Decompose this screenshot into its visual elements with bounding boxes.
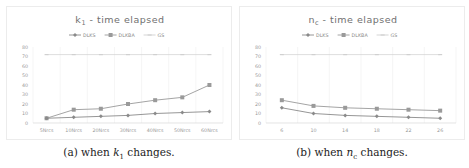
data-point-marker (207, 83, 211, 87)
data-point-marker (343, 113, 347, 117)
x-tick-label: 14 (342, 128, 348, 133)
data-point-marker (72, 115, 76, 119)
data-point-marker (280, 106, 284, 110)
chart-panel-k1: k1 - time elapsedDLKSDLKBAGS010203040506… (6, 6, 232, 140)
x-tick-label: 10Nrcs (65, 128, 82, 133)
x-tick-label: 40Nrcs (147, 128, 164, 133)
caption-a: (a) when k1 changes. (4, 146, 234, 161)
y-tick-label: 10 (22, 111, 28, 116)
y-tick-label: 0 (258, 121, 261, 126)
data-point-marker (407, 108, 411, 112)
data-point-marker (153, 98, 157, 102)
data-point-marker (207, 110, 211, 114)
legend-label-dlks: DLKS (316, 33, 329, 38)
data-point-marker (438, 109, 442, 113)
y-tick-label: 30 (255, 92, 261, 97)
y-tick-label: 40 (22, 83, 28, 88)
legend-label-gs: GS (391, 33, 398, 38)
x-tick-label: 5Nrcs (40, 128, 54, 133)
data-point-marker (407, 115, 411, 119)
y-tick-label: 30 (22, 92, 28, 97)
x-tick-label: 18 (374, 128, 380, 133)
y-tick-label: 20 (22, 102, 28, 107)
caption-a-prefix: (a) when (63, 146, 113, 158)
legend-marker-icon (109, 33, 113, 37)
legend-label-dlkba: DLKBA (119, 33, 136, 38)
legend-marker-icon (342, 33, 346, 37)
caption-b: (b) when nc changes. (237, 146, 467, 161)
data-point-marker (438, 116, 442, 120)
legend: DLKSDLKBAGS (69, 33, 164, 38)
chart-panel-nc: nc - time elapsedDLKSDLKBAGS010203040506… (239, 6, 465, 140)
x-tick-label: 6 (280, 128, 283, 133)
y-tick-label: 50 (255, 73, 261, 78)
data-point-marker (126, 113, 130, 117)
x-tick-label: 50Nrcs (174, 128, 191, 133)
data-point-marker (343, 106, 347, 110)
data-point-marker (99, 114, 103, 118)
chart-title: k1 - time elapsed (75, 14, 164, 27)
data-point-marker (312, 112, 316, 116)
chart-title: nc - time elapsed (308, 14, 397, 27)
y-tick-label: 70 (255, 54, 261, 59)
data-point-marker (180, 111, 184, 115)
y-tick-label: 10 (255, 111, 261, 116)
data-point-marker (375, 114, 379, 118)
x-tick-label: 26 (437, 128, 443, 133)
legend-label-dlkba: DLKBA (352, 33, 369, 38)
x-tick-label: 60Nrcs (201, 128, 218, 133)
y-tick-label: 70 (22, 54, 28, 59)
y-tick-label: 80 (255, 45, 261, 50)
x-tick-label: 30Nrcs (120, 128, 137, 133)
series-line (47, 85, 210, 118)
data-point-marker (180, 95, 184, 99)
y-tick-label: 80 (22, 45, 28, 50)
legend-label-gs: GS (158, 33, 165, 38)
y-tick-label: 60 (22, 64, 28, 69)
legend: DLKSDLKBAGS (302, 33, 397, 38)
data-point-marker (280, 98, 284, 102)
y-tick-label: 50 (22, 73, 28, 78)
caption-b-prefix: (b) when (296, 146, 346, 158)
y-tick-label: 0 (25, 121, 28, 126)
data-point-marker (72, 108, 76, 112)
caption-a-suffix: changes. (124, 146, 175, 158)
y-tick-label: 40 (255, 83, 261, 88)
line-chart-nc: nc - time elapsedDLKSDLKBAGS010203040506… (240, 7, 466, 141)
data-point-marker (99, 107, 103, 111)
x-tick-label: 22 (405, 128, 411, 133)
data-point-marker (153, 112, 157, 116)
x-tick-label: 20Nrcs (93, 128, 110, 133)
y-tick-label: 60 (255, 64, 261, 69)
data-point-marker (312, 104, 316, 108)
data-point-marker (126, 102, 130, 106)
data-point-marker (375, 107, 379, 111)
legend-label-dlks: DLKS (83, 33, 96, 38)
caption-b-suffix: changes. (357, 146, 408, 158)
legend-marker-icon (306, 33, 310, 37)
y-tick-label: 20 (255, 102, 261, 107)
legend-marker-icon (73, 33, 77, 37)
line-chart-k1: k1 - time elapsedDLKSDLKBAGS010203040506… (7, 7, 233, 141)
x-tick-label: 10 (310, 128, 316, 133)
